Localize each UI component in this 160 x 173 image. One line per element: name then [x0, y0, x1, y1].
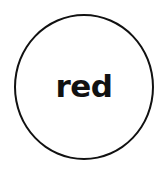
circle-node: red — [14, 14, 154, 160]
node-label: red — [55, 68, 112, 104]
